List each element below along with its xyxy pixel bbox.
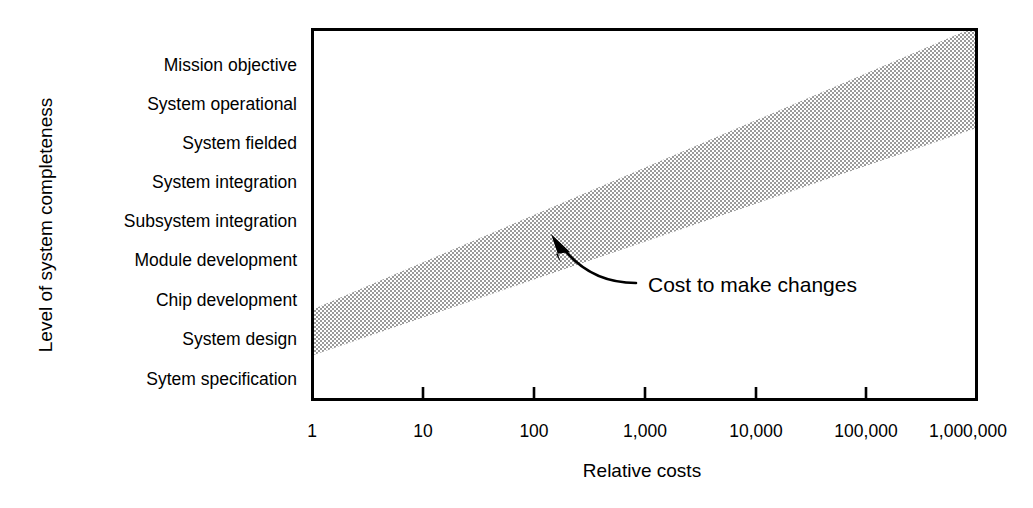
x-tick-label-0: 1	[307, 421, 317, 441]
annotation-label: Cost to make changes	[648, 273, 857, 296]
y-category-label-mission-objective: Mission objective	[164, 55, 297, 75]
y-axis-title: Level of system completeness	[35, 98, 56, 353]
y-category-label-module-development: Module development	[135, 250, 298, 270]
x-axis-tick-labels: 1 10 100 1,000 10,000 100,000 1,000,000	[307, 421, 1007, 441]
y-axis-category-labels: Mission objective System operational Sys…	[124, 55, 297, 389]
x-tick-label-2: 100	[519, 421, 548, 441]
chart-figure: 1 10 100 1,000 10,000 100,000 1,000,000 …	[0, 0, 1033, 508]
x-tick-label-6: 1,000,000	[929, 421, 1007, 441]
y-category-label-system-operational: System operational	[147, 94, 297, 114]
x-axis-title: Relative costs	[583, 460, 701, 481]
x-tick-label-1: 10	[413, 421, 433, 441]
y-category-label-system-design: System design	[182, 329, 297, 349]
x-tick-label-4: 10,000	[729, 421, 783, 441]
x-tick-label-5: 100,000	[834, 421, 898, 441]
y-category-label-system-integration: System integration	[152, 172, 297, 192]
y-category-label-subsystem-integration: Subsystem integration	[124, 211, 297, 231]
y-category-label-chip-development: Chip development	[156, 290, 297, 310]
cost-to-make-changes-chart: 1 10 100 1,000 10,000 100,000 1,000,000 …	[0, 0, 1033, 508]
y-category-label-sytem-specification: Sytem specification	[146, 369, 297, 389]
x-tick-label-3: 1,000	[623, 421, 667, 441]
y-category-label-system-fielded: System fielded	[182, 133, 297, 153]
